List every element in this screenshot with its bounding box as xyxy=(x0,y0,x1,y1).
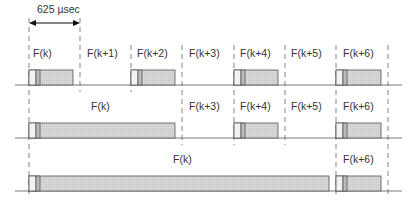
frame-label: F(k) xyxy=(173,153,192,165)
packets-row-1 xyxy=(29,70,381,85)
frame-label: F(k+5) xyxy=(291,47,322,59)
frame-label: F(k+5) xyxy=(291,100,322,112)
frame-label: F(k+1) xyxy=(87,47,118,59)
dimension-arrow xyxy=(29,20,80,26)
frame-label: F(k+4) xyxy=(240,47,271,59)
packets-row-2 xyxy=(29,123,381,138)
frame-label: F(k+6) xyxy=(343,100,374,112)
frame-label: F(k) xyxy=(91,100,110,112)
frame-label: F(k+6) xyxy=(343,153,374,165)
packets-row-3 xyxy=(29,176,381,191)
frame-label: F(k+6) xyxy=(343,47,374,59)
dimension-label: 625 µsec xyxy=(37,3,80,15)
frame-label: F(k+3) xyxy=(189,47,220,59)
frame-label: F(k+3) xyxy=(189,100,220,112)
frame-label: F(k+2) xyxy=(137,47,168,59)
frame-label: F(k) xyxy=(33,47,52,59)
frame-label: F(k+4) xyxy=(240,100,271,112)
